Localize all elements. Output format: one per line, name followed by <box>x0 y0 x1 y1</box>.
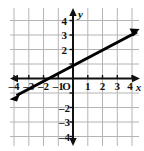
xtick-label--3: –3 <box>22 80 35 92</box>
ytick-label--3: –3 <box>58 116 71 128</box>
xtick-label--4: –4 <box>8 80 21 92</box>
xtick-label--2: –2 <box>37 80 50 92</box>
xtick-label-1: 1 <box>85 80 91 92</box>
ytick-label-3: 3 <box>62 29 68 41</box>
x-axis-label: x <box>135 81 142 93</box>
xtick-label-2: 2 <box>100 80 106 92</box>
ytick-label--4: –4 <box>58 131 71 143</box>
coordinate-plane-figure: 4 3 2 –2 –3 –4 –4 –3 –2 –1 1 2 3 4 O x y <box>0 0 144 151</box>
xtick-label-4: 4 <box>127 80 133 92</box>
coordinate-plane-svg: 4 3 2 –2 –3 –4 –4 –3 –2 –1 1 2 3 4 O x y <box>0 0 144 151</box>
origin-label: O <box>62 80 71 92</box>
xtick-label-3: 3 <box>115 80 121 92</box>
y-axis-label: y <box>76 8 83 20</box>
ytick-label--2: –2 <box>58 102 71 114</box>
ytick-label-2: 2 <box>62 44 68 56</box>
ytick-label-4: 4 <box>62 15 68 27</box>
